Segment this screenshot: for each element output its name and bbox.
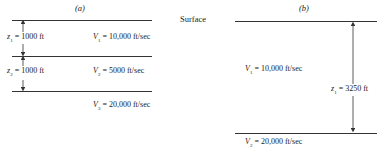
panel-b-v1-label: V1 = 10,000 ft/sec [245,64,302,75]
panel-a-v2-label: V2 = 5000 ft/sec [93,66,144,77]
panel-a-v1-label: V1 = 10,000 ft/sec [93,32,150,43]
panel-b-surface-line [235,21,377,22]
surface-label: Surface [180,14,206,24]
panel-a-z1-label: z1 = 1000 ft [7,32,44,43]
panel-a-z2-label: z2 = 1000 ft [7,66,44,77]
panel-b-interface-1 [235,133,377,134]
panel-b-v2-label: V2 = 20,000 ft/sec [245,137,302,148]
panel-a-v3-label: V3 = 20,000 ft/sec [93,100,150,111]
panel-b-z1-label: z1 = 3250 ft [331,84,368,95]
panel-b-title: (b) [299,3,309,13]
